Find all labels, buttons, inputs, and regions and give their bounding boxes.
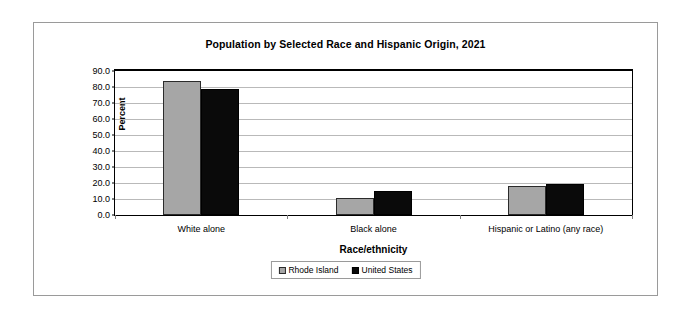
x-tick-mark [460,215,461,219]
bar-group [508,71,584,215]
y-tick-mark [112,103,115,104]
y-tick-mark [112,199,115,200]
chart-title: Population by Selected Race and Hispanic… [34,38,657,50]
bar [201,89,239,215]
bar [508,186,546,215]
y-tick-label: 70.0 [76,98,110,108]
y-tick-mark [112,183,115,184]
legend-swatch-icon [352,267,359,274]
y-tick-label: 90.0 [76,66,110,76]
y-tick-label: 80.0 [76,82,110,92]
plot-area: Percent 90.080.070.060.050.040.030.020.0… [114,69,633,216]
legend-item[interactable]: United States [352,265,413,275]
chart-frame: Population by Selected Race and Hispanic… [33,22,658,296]
legend-label: Rhode Island [288,265,338,275]
y-tick-mark [112,87,115,88]
y-tick-label: 30.0 [76,162,110,172]
y-tick-label: 50.0 [76,130,110,140]
x-tick-mark [115,215,116,219]
chart-legend: Rhode IslandUnited States [270,261,420,279]
x-tick-mark [632,215,633,219]
x-tick-label: Black alone [350,224,397,234]
y-tick-mark [112,71,115,72]
x-tick-mark [287,215,288,219]
y-tick-label: 40.0 [76,146,110,156]
x-axis-title: Race/ethnicity [115,244,632,255]
bar-group [336,71,412,215]
y-tick-mark [112,135,115,136]
legend-label: United States [362,265,413,275]
bar-group [163,71,239,215]
bar [546,184,584,215]
y-tick-label: 60.0 [76,114,110,124]
legend-swatch-icon [278,267,285,274]
legend-item[interactable]: Rhode Island [278,265,338,275]
bar [163,81,201,215]
y-tick-mark [112,151,115,152]
y-tick-label: 20.0 [76,178,110,188]
y-tick-mark [112,119,115,120]
bar [336,198,374,215]
y-axis-title: Percent [117,69,127,159]
y-tick-label: 0.0 [76,210,110,220]
x-tick-label: White alone [177,224,225,234]
y-tick-label: 10.0 [76,194,110,204]
x-tick-label: Hispanic or Latino (any race) [488,224,603,234]
bar [374,191,412,215]
y-tick-mark [112,167,115,168]
